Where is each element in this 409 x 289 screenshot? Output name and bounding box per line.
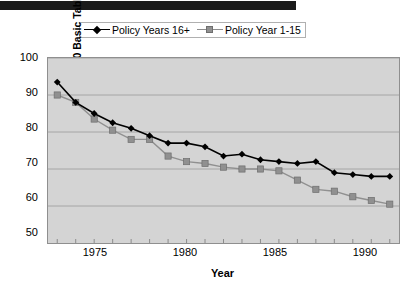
y-tick-label-100: 100 <box>6 51 38 63</box>
chart-page: Policy Years 16+ Policy Year 1-15 Percen… <box>0 0 409 289</box>
page-top-black-bar <box>0 1 296 10</box>
data-point <box>257 156 264 163</box>
y-tick-label-60: 60 <box>6 191 38 203</box>
x-tick-label-1975: 1975 <box>75 246 115 258</box>
data-point <box>202 160 208 166</box>
black-diamond-marker-icon <box>84 25 110 35</box>
data-point <box>386 173 393 180</box>
data-point <box>276 168 282 174</box>
chart-canvas <box>48 58 399 243</box>
y-tick-label-90: 90 <box>6 86 38 98</box>
data-point <box>331 169 338 176</box>
data-point <box>368 197 374 203</box>
data-point <box>257 166 263 172</box>
data-point <box>312 158 319 165</box>
data-point <box>276 158 283 165</box>
data-point <box>128 136 134 142</box>
data-point <box>202 143 209 150</box>
data-point <box>128 125 135 132</box>
plot-area <box>47 57 400 244</box>
legend-label-0: Policy Years 16+ <box>112 25 190 36</box>
data-point <box>294 177 300 183</box>
y-tick-label-50: 50 <box>6 226 38 238</box>
data-point <box>294 160 301 167</box>
data-point <box>313 186 319 192</box>
data-point <box>220 164 226 170</box>
data-point <box>349 171 356 178</box>
data-point <box>183 140 190 147</box>
chart-legend: Policy Years 16+ Policy Year 1-15 <box>79 22 306 38</box>
data-point <box>165 140 172 147</box>
data-point <box>350 194 356 200</box>
data-point <box>165 153 171 159</box>
data-point <box>54 92 60 98</box>
x-axis-title: Year <box>47 267 398 279</box>
data-point <box>331 188 337 194</box>
series-line-policy-years-16 <box>57 82 390 176</box>
data-point <box>368 173 375 180</box>
legend-entry-policy-years-16-plus: Policy Years 16+ <box>84 25 190 36</box>
legend-label-1: Policy Year 1-15 <box>225 25 301 36</box>
data-point <box>239 166 245 172</box>
x-tick-label-1980: 1980 <box>165 246 205 258</box>
data-point <box>110 127 116 133</box>
data-point <box>239 151 246 158</box>
gray-square-marker-icon <box>197 25 223 35</box>
data-point <box>109 119 116 126</box>
data-point <box>183 159 189 165</box>
x-tick-label-1990: 1990 <box>345 246 385 258</box>
series-line-policy-year-1-15 <box>57 95 390 204</box>
data-point <box>387 201 393 207</box>
x-tick-label-1985: 1985 <box>255 246 295 258</box>
data-point <box>220 153 227 160</box>
legend-entry-policy-year-1-15: Policy Year 1-15 <box>197 25 301 36</box>
y-tick-label-70: 70 <box>6 156 38 168</box>
y-tick-label-80: 80 <box>6 121 38 133</box>
